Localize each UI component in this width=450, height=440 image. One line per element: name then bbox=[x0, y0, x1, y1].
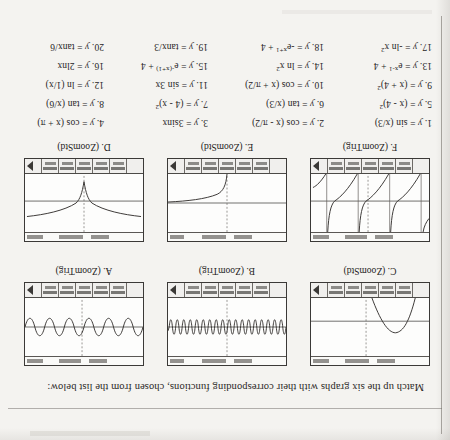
menu-cell[interactable] bbox=[269, 159, 286, 173]
function-row: 1. y = sin (x/3) 2. y = cos (x - π/2) 3.… bbox=[8, 109, 436, 128]
function-row: 5. y = (x - 4)2 6. y = tan (x/3) 7. y = … bbox=[8, 90, 436, 109]
function-item-13: 13. y = ex-1 + 4 bbox=[374, 61, 432, 71]
screen-menu-bar-e bbox=[168, 159, 286, 174]
graph-label-d: D. (ZoomStd) bbox=[16, 142, 152, 152]
plot-area-d bbox=[25, 174, 143, 232]
graph-label-f: F. (ZoomTrig) bbox=[302, 142, 438, 152]
function-item-14: 14. y = ln x2 bbox=[276, 61, 324, 71]
calculator-screen-b bbox=[167, 282, 287, 366]
page-top-rule bbox=[8, 408, 442, 409]
graph-cell-c: C. (ZoomStd) bbox=[302, 260, 438, 368]
function-item-4: 4. y = cos (x + π) bbox=[37, 118, 104, 128]
menu-cell[interactable] bbox=[252, 283, 269, 297]
calculator-screen-f bbox=[310, 158, 430, 242]
graph-row-top: A. (ZoomTrig) bbox=[0, 260, 450, 368]
menu-cell[interactable] bbox=[58, 159, 75, 173]
menu-cell[interactable] bbox=[75, 159, 92, 173]
menu-cell[interactable] bbox=[218, 283, 235, 297]
menu-cell[interactable] bbox=[269, 283, 286, 297]
menu-cell[interactable] bbox=[126, 283, 143, 297]
plot-area-e bbox=[168, 174, 286, 232]
menu-cell-more[interactable] bbox=[311, 283, 327, 297]
plot-area-a bbox=[25, 298, 143, 356]
screen-status-bar-e bbox=[168, 232, 286, 241]
menu-cell[interactable] bbox=[361, 283, 378, 297]
menu-cell[interactable] bbox=[184, 283, 201, 297]
menu-cell-more[interactable] bbox=[168, 283, 184, 297]
graph-cell-f: F. (ZoomTrig) bbox=[302, 136, 438, 244]
function-item-19: 19. y = tanx/3 bbox=[154, 42, 208, 52]
menu-cell[interactable] bbox=[235, 283, 252, 297]
plot-svg-b bbox=[168, 298, 286, 356]
function-item-20: 20. y = tanx/6 bbox=[50, 42, 104, 52]
menu-cell[interactable] bbox=[412, 283, 429, 297]
calculator-screen-a bbox=[24, 282, 144, 366]
function-item-16: 16. y = 2lnx bbox=[57, 61, 104, 71]
graph-label-c: C. (ZoomStd) bbox=[302, 266, 438, 276]
menu-cell[interactable] bbox=[92, 159, 109, 173]
menu-cell[interactable] bbox=[109, 159, 126, 173]
menu-cell[interactable] bbox=[327, 159, 344, 173]
menu-cell[interactable] bbox=[378, 159, 395, 173]
menu-cell[interactable] bbox=[58, 283, 75, 297]
screen-status-bar-a bbox=[25, 356, 143, 365]
menu-cell[interactable] bbox=[395, 283, 412, 297]
screen-status-bar-b bbox=[168, 356, 286, 365]
function-item-6: 6. y = tan (x/3) bbox=[266, 99, 324, 109]
menu-cell[interactable] bbox=[201, 283, 218, 297]
calculator-screen-e bbox=[167, 158, 287, 242]
function-item-2: 2. y = cos (x - π/2) bbox=[252, 118, 324, 128]
menu-cell[interactable] bbox=[378, 283, 395, 297]
menu-cell[interactable] bbox=[218, 159, 235, 173]
menu-cell[interactable] bbox=[395, 159, 412, 173]
graph-label-b: B. (ZoomTrig) bbox=[159, 266, 295, 276]
menu-cell[interactable] bbox=[235, 159, 252, 173]
graph-label-e: E. (ZoomStd) bbox=[159, 142, 295, 152]
graph-cell-e: E. (ZoomStd) bbox=[159, 136, 295, 244]
menu-cell-more[interactable] bbox=[311, 159, 327, 173]
menu-cell[interactable] bbox=[412, 159, 429, 173]
plot-area-c bbox=[311, 298, 429, 356]
menu-cell[interactable] bbox=[126, 159, 143, 173]
menu-cell[interactable] bbox=[344, 159, 361, 173]
menu-cell[interactable] bbox=[75, 283, 92, 297]
menu-cell[interactable] bbox=[252, 159, 269, 173]
plot-svg-a bbox=[25, 298, 143, 356]
function-row: 13. y = ex-1 + 4 14. y = ln x2 15. y = e… bbox=[8, 52, 436, 71]
menu-cell[interactable] bbox=[41, 283, 58, 297]
graph-label-a: A. (ZoomTrig) bbox=[16, 266, 152, 276]
function-row: 9. y = (x + 4)2 10. y = cos (x + π/2) 11… bbox=[8, 71, 436, 90]
menu-cell-more[interactable] bbox=[25, 159, 41, 173]
menu-cell[interactable] bbox=[327, 283, 344, 297]
menu-cell[interactable] bbox=[344, 283, 361, 297]
menu-cell[interactable] bbox=[361, 159, 378, 173]
menu-cell[interactable] bbox=[92, 283, 109, 297]
plot-svg-e bbox=[168, 174, 286, 232]
screen-status-bar-d bbox=[25, 232, 143, 241]
function-item-17: 17. y = -ln x2 bbox=[381, 42, 432, 52]
function-item-12: 12. y = ln (1/x) bbox=[46, 80, 104, 90]
graph-row-bottom: D. (ZoomStd) bbox=[0, 136, 450, 244]
function-item-8: 8. y = tan (x/6) bbox=[46, 99, 104, 109]
function-item-5: 5. y = (x - 4)2 bbox=[380, 99, 433, 109]
screen-menu-bar-a bbox=[25, 283, 143, 298]
calculator-screen-d bbox=[24, 158, 144, 242]
scan-smudge bbox=[282, 10, 432, 14]
menu-cell[interactable] bbox=[184, 159, 201, 173]
function-list: 1. y = sin (x/3) 2. y = cos (x - π/2) 3.… bbox=[8, 33, 436, 128]
menu-cell[interactable] bbox=[201, 159, 218, 173]
menu-cell-more[interactable] bbox=[168, 159, 184, 173]
menu-cell[interactable] bbox=[41, 159, 58, 173]
plot-svg-c bbox=[311, 298, 429, 356]
function-item-3: 3. y = 3sinx bbox=[162, 118, 208, 128]
plot-area-f bbox=[311, 174, 429, 232]
screen-menu-bar-f bbox=[311, 159, 429, 174]
function-item-18: 18. y = -ex+1 + 4 bbox=[261, 42, 324, 52]
plot-svg-f bbox=[311, 174, 429, 232]
function-item-15: 15. y = e-(x+1) + 4 bbox=[141, 61, 208, 71]
calculator-screen-c bbox=[310, 282, 430, 366]
menu-cell[interactable] bbox=[109, 283, 126, 297]
graph-cell-b: B. (ZoomTrig) bbox=[159, 260, 295, 368]
menu-cell-more[interactable] bbox=[25, 283, 41, 297]
plot-svg-d bbox=[25, 174, 143, 232]
